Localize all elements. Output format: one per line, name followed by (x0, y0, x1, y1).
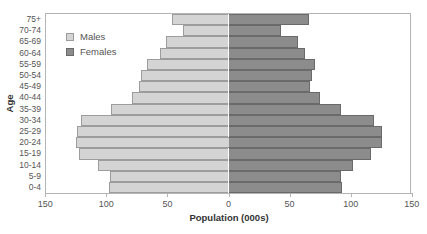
bar-males-35-39 (111, 104, 228, 115)
x-tick-label: 50 (152, 199, 182, 209)
bar-females-65-69 (229, 36, 299, 47)
y-tick-label: 0-4 (0, 182, 41, 193)
x-tick (45, 193, 46, 197)
bar-males-30-34 (81, 115, 229, 126)
bar-females-15-19 (229, 148, 372, 159)
bar-females-55-59 (229, 59, 316, 70)
x-tick-label: 150 (397, 199, 427, 209)
x-tick (229, 193, 230, 197)
legend-item-females: Females (66, 44, 116, 59)
bar-females-75+ (229, 14, 310, 25)
bar-females-50-54 (229, 70, 312, 81)
bar-females-35-39 (229, 104, 341, 115)
y-tick-label: 10-14 (0, 160, 41, 171)
y-tick-label: 25-29 (0, 126, 41, 137)
y-axis-title: Age (4, 89, 15, 119)
bar-males-10-14 (98, 160, 229, 171)
y-tick-label: 5-9 (0, 171, 41, 182)
bar-males-50-54 (141, 70, 229, 81)
bar-females-30-34 (229, 115, 374, 126)
legend-label-males: Males (80, 31, 105, 42)
bar-males-45-49 (139, 81, 228, 92)
x-axis-title: Population (000s) (150, 212, 308, 223)
bar-females-25-29 (229, 126, 383, 137)
bar-males-25-29 (77, 126, 229, 137)
bar-males-0-4 (109, 182, 229, 193)
bar-males-55-59 (147, 59, 229, 70)
females-swatch-icon (66, 48, 74, 56)
bar-males-20-24 (76, 137, 229, 148)
x-tick (167, 193, 168, 197)
bar-males-70-74 (183, 25, 228, 36)
bar-females-45-49 (229, 81, 311, 92)
population-pyramid-chart: 75+70-7465-6960-6455-5950-5445-4940-4435… (0, 0, 427, 234)
x-tick-label: 150 (30, 199, 60, 209)
bar-males-5-9 (110, 171, 229, 182)
x-tick (106, 193, 107, 197)
bar-females-10-14 (229, 160, 354, 171)
males-swatch-icon (66, 33, 74, 41)
x-tick-label: 100 (91, 199, 121, 209)
bar-males-75+ (172, 14, 228, 25)
y-tick-label: 70-74 (0, 25, 41, 36)
x-tick (412, 193, 413, 197)
bar-females-60-64 (229, 48, 306, 59)
bar-females-70-74 (229, 25, 282, 36)
bar-females-0-4 (229, 182, 343, 193)
y-tick-label: 20-24 (0, 137, 41, 148)
y-tick-label: 50-54 (0, 70, 41, 81)
y-tick-label: 75+ (0, 14, 41, 25)
x-tick-label: 50 (275, 199, 305, 209)
y-tick-label: 15-19 (0, 148, 41, 159)
bar-males-15-19 (79, 148, 228, 159)
x-tick-label: 100 (336, 199, 366, 209)
x-tick (351, 193, 352, 197)
bar-females-5-9 (229, 171, 341, 182)
bar-females-40-44 (229, 92, 321, 103)
bar-males-60-64 (160, 48, 228, 59)
legend-item-males: Males (66, 29, 116, 44)
y-tick-label: 65-69 (0, 36, 41, 47)
bar-females-20-24 (229, 137, 383, 148)
y-tick-label: 60-64 (0, 48, 41, 59)
x-tick-label: 0 (214, 199, 244, 209)
x-tick (290, 193, 291, 197)
y-tick-label: 55-59 (0, 59, 41, 70)
bar-males-65-69 (166, 36, 228, 47)
legend-label-females: Females (80, 46, 116, 57)
legend: Males Females (66, 29, 116, 59)
bar-males-40-44 (132, 92, 229, 103)
